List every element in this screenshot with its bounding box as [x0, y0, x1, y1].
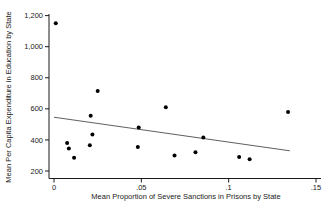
data-point [72, 156, 76, 160]
x-tick-label: .1 [226, 183, 232, 192]
y-tick-label: 1,000 [24, 42, 43, 51]
data-point [88, 143, 92, 147]
data-point [173, 153, 177, 157]
scatter-plot: 2004006008001,0001,200 0.05.1.15 Mean Pe… [0, 0, 334, 213]
data-point [65, 141, 69, 145]
data-point [136, 145, 140, 149]
y-tick-label: 200 [30, 167, 43, 176]
y-tick-label: 1,200 [24, 11, 43, 20]
data-point [201, 136, 205, 140]
points-group [54, 21, 290, 161]
scatter-figure: 2004006008001,0001,200 0.05.1.15 Mean Pe… [0, 0, 334, 213]
y-axis-title: Mean Per Capita Expenditure in Education… [4, 11, 13, 182]
data-point [67, 146, 71, 150]
x-tick-label: .15 [311, 183, 321, 192]
data-point [164, 105, 168, 109]
data-point [54, 21, 58, 25]
x-tick-label: .05 [136, 183, 146, 192]
data-point [90, 132, 94, 136]
data-point [193, 150, 197, 154]
data-point [237, 155, 241, 159]
y-axis: 2004006008001,0001,200 [24, 11, 49, 178]
x-axis: 0.05.1.15 [49, 179, 321, 193]
y-tick-label: 400 [30, 136, 43, 145]
data-point [89, 114, 93, 118]
x-tick-label: 0 [52, 183, 56, 192]
data-point [96, 89, 100, 93]
y-tick-label: 600 [30, 104, 43, 113]
x-axis-title: Mean Proportion of Severe Sanctions in P… [91, 192, 280, 201]
data-point [286, 110, 290, 114]
data-point [137, 125, 141, 129]
data-point [248, 157, 252, 161]
y-tick-label: 800 [30, 73, 43, 82]
